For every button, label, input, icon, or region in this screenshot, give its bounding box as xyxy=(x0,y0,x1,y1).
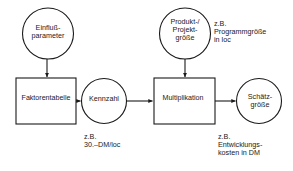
node-schaetzgroesse xyxy=(237,79,282,124)
flow-diagram: Einfluß- parameter Faktorentabelle Kennz… xyxy=(0,0,293,171)
node-einflussparameter xyxy=(23,8,74,59)
node-kennzahl xyxy=(82,79,127,124)
diagram-canvas xyxy=(0,0,293,171)
node-produkt-projekt-groesse xyxy=(160,8,211,59)
node-multiplikation xyxy=(154,78,215,124)
node-faktorentabelle xyxy=(16,78,76,124)
